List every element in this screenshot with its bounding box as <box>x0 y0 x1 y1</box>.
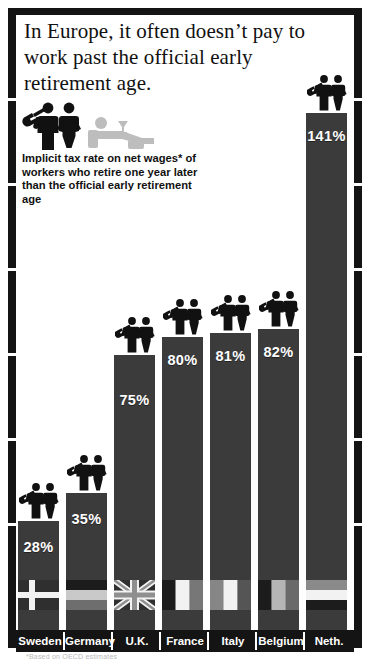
axis-label-italy: Italy <box>209 630 257 652</box>
figure-pair-belgium <box>259 289 299 329</box>
flag-france-icon <box>162 580 203 610</box>
axis-tick-50 <box>8 438 16 441</box>
frame-top-border <box>8 8 362 15</box>
axis-label-netherlands: Neth. <box>305 630 353 652</box>
axis-label-uk: U.K. <box>113 630 161 652</box>
axis-tick-75 <box>8 353 16 356</box>
bar-value-uk: 75% <box>114 392 155 408</box>
flag-sweden-icon <box>18 580 59 610</box>
bar-netherlands <box>306 113 347 633</box>
chart-plot-area: 28% <box>16 15 354 633</box>
figure-pair-france <box>163 297 203 337</box>
flag-italy-icon <box>210 580 251 610</box>
axis-label-france: France <box>161 630 209 652</box>
figure-pair-sweden <box>19 481 59 521</box>
flag-netherlands-icon <box>306 580 347 610</box>
axis-label-sweden: Sweden <box>16 630 64 652</box>
axis-tick-right-75 <box>354 353 362 356</box>
country-label-bar: Sweden Germany U.K. France Italy Belgium… <box>16 630 354 652</box>
axis-tick-100 <box>8 268 16 271</box>
flag-strip <box>16 572 354 630</box>
bar-value-france: 80% <box>162 352 203 368</box>
axis-tick-25 <box>8 523 16 526</box>
axis-label-belgium: Belgium <box>257 630 305 652</box>
axis-tick-right-50 <box>354 438 362 441</box>
figure-pair-italy <box>211 293 251 333</box>
axis-tick-125 <box>8 183 16 186</box>
axis-label-germany: Germany <box>65 630 113 652</box>
axis-tick-right-150 <box>354 98 362 101</box>
figure-pair-uk <box>115 315 155 355</box>
infographic-root: In Europe, it often doesn’t pay to work … <box>0 0 370 667</box>
frame-right-axis-rail <box>354 8 362 648</box>
bar-value-netherlands: 141% <box>306 128 347 144</box>
bar-value-italy: 81% <box>210 348 251 364</box>
bar-value-sweden: 28% <box>18 539 59 555</box>
axis-tick-right-25 <box>354 523 362 526</box>
axis-tick-right-100 <box>354 268 362 271</box>
flag-belgium-icon <box>258 580 299 610</box>
figure-pair-netherlands <box>307 73 347 113</box>
footnote: *Based on OECD estimates <box>26 652 286 661</box>
axis-tick-right-125 <box>354 183 362 186</box>
flag-germany-icon <box>66 580 107 610</box>
bar-value-belgium: 82% <box>258 344 299 360</box>
frame-left-axis-rail <box>8 8 16 648</box>
flag-uk-icon <box>114 580 155 610</box>
bar-value-germany: 35% <box>66 511 107 527</box>
figure-pair-germany <box>67 453 107 493</box>
axis-tick-150 <box>8 98 16 101</box>
